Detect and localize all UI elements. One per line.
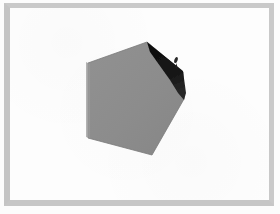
screenshot-root [0,0,280,214]
figure-canvas [0,0,280,214]
left-edge-highlight [86,62,90,138]
gray-shape-body [88,42,184,155]
